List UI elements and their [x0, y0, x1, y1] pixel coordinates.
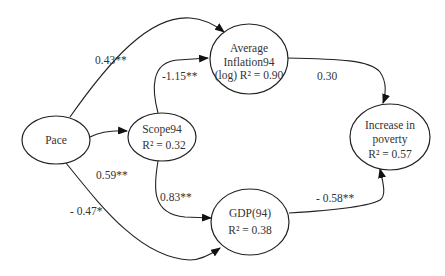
node-scope94: Scope94 R² = 0.32	[128, 113, 196, 161]
edge-label-scope94-gdp: 0.83**	[160, 191, 192, 203]
edge-label-gdp-poverty: - 0.58**	[316, 192, 355, 204]
node-gdp-r2: R² = 0.38	[228, 224, 272, 236]
node-pace-label: Pace	[45, 134, 67, 146]
node-poverty-r2: R² = 0.57	[368, 148, 412, 160]
node-gdp-title: GDP(94)	[229, 207, 271, 220]
edge-label-pace-gdp: - 0.47*	[70, 205, 103, 217]
node-poverty: Increase in poverty R² = 0.57	[350, 104, 430, 170]
edge-label-scope94-inflation: -1.15**	[162, 70, 198, 82]
node-pace: Pace	[22, 116, 90, 164]
node-scope94-title: Scope94	[142, 123, 182, 136]
edge-label-pace-scope94: 0.59**	[96, 169, 128, 181]
node-gdp: GDP(94) R² = 0.38	[211, 189, 289, 255]
edge-gdp-poverty	[289, 169, 384, 213]
edge-pace-inflation	[70, 18, 224, 117]
edge-label-inflation-poverty: 0.30	[317, 70, 337, 82]
node-poverty-line2: poverty	[372, 133, 407, 146]
node-inflation-line3: (log) R² = 0.90	[215, 69, 284, 82]
node-inflation-line1: Average	[230, 42, 268, 55]
node-scope94-r2: R² = 0.32	[142, 139, 186, 151]
edge-pace-scope94	[90, 131, 127, 137]
path-diagram: 0.43** 0.59** - 0.47* -1.15** 0.83** 0.3…	[0, 0, 445, 276]
edge-scope94-inflation	[154, 58, 208, 113]
edge-label-pace-inflation: 0.43**	[95, 54, 127, 66]
node-inflation: Average Inflation94 (log) R² = 0.90	[210, 24, 288, 94]
edge-scope94-gdp	[155, 161, 211, 218]
node-inflation-line2: Inflation94	[223, 56, 274, 68]
node-poverty-line1: Increase in	[365, 119, 415, 131]
